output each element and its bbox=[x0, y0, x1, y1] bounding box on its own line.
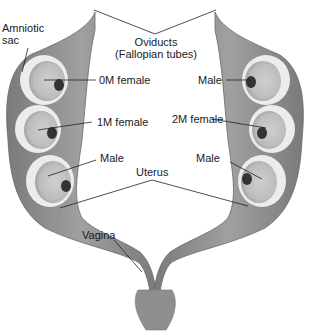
label-oviducts: Oviducts (Fallopian tubes) bbox=[111, 36, 201, 60]
placenta-right-1 bbox=[246, 76, 256, 88]
label-oviducts-line1: Oviducts bbox=[111, 36, 201, 48]
label-right-fetus-2: 2M female bbox=[172, 113, 223, 125]
placenta-right-3 bbox=[242, 173, 252, 185]
label-amniotic-sac: Amniotic sac bbox=[2, 22, 44, 46]
label-right-fetus-3: Male bbox=[196, 152, 220, 164]
placenta-left-3 bbox=[61, 180, 71, 192]
label-right-fetus-1: Male bbox=[198, 74, 222, 86]
label-vagina: Vagina bbox=[82, 229, 115, 241]
label-amniotic-line1: Amniotic bbox=[2, 22, 44, 34]
label-left-fetus-3: Male bbox=[100, 152, 124, 164]
label-amniotic-line2: sac bbox=[2, 34, 44, 46]
label-left-fetus-2: 1M female bbox=[97, 116, 148, 128]
placenta-right-2 bbox=[257, 127, 267, 139]
vagina-shape bbox=[135, 290, 175, 330]
label-oviducts-line2: (Fallopian tubes) bbox=[111, 48, 201, 60]
label-uterus: Uterus bbox=[136, 166, 168, 178]
placenta-left-1 bbox=[54, 79, 64, 91]
label-left-fetus-1: 0M female bbox=[99, 74, 150, 86]
